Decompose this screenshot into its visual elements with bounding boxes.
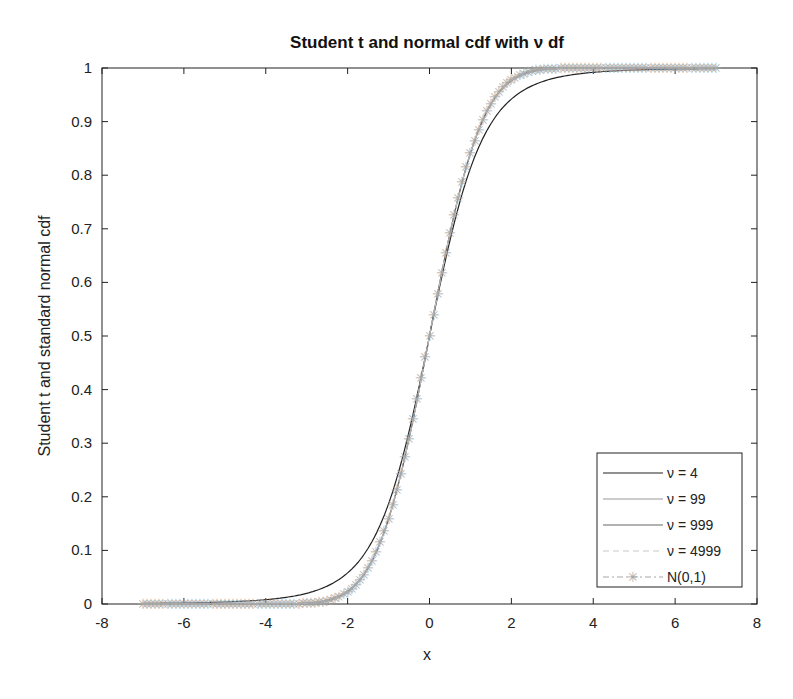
y-tick-label: 0.8 <box>71 166 92 183</box>
star-marker: ✳ <box>428 307 440 323</box>
star-marker: ✳ <box>432 286 444 302</box>
star-marker: ✳ <box>407 411 419 427</box>
y-tick-label: 0.3 <box>71 434 92 451</box>
legend-label: ν = 99 <box>667 491 706 507</box>
legend-label: ν = 4 <box>667 465 698 481</box>
star-marker: ✳ <box>448 207 460 223</box>
star-marker: ✳ <box>387 497 399 513</box>
star-marker: ✳ <box>419 349 431 365</box>
y-tick-label: 1 <box>84 59 92 76</box>
y-tick-label: 0.4 <box>71 381 92 398</box>
star-marker: ✳ <box>436 265 448 281</box>
star-marker: ✳ <box>710 60 722 76</box>
star-marker: ✳ <box>403 431 415 447</box>
star-marker: ✳ <box>424 328 436 344</box>
star-marker: ✳ <box>411 391 423 407</box>
y-tick-label: 0.2 <box>71 488 92 505</box>
legend-label: N(0,1) <box>667 569 706 585</box>
star-marker: ✳ <box>444 225 456 241</box>
cdf-chart: Student t and normal cdf with ν df -8-6-… <box>0 0 793 699</box>
star-marker: ✳ <box>415 370 427 386</box>
legend-label: ν = 999 <box>667 517 714 533</box>
x-axis-label: x <box>423 646 431 663</box>
y-axis-label: Student t and standard normal cdf <box>36 215 53 457</box>
legend-label: ν = 4999 <box>667 543 721 559</box>
star-marker: ✳ <box>391 482 403 498</box>
star-marker: ✳ <box>460 159 472 175</box>
y-tick-label: 0.7 <box>71 220 92 237</box>
star-marker: ✳ <box>456 174 468 190</box>
x-tick-label: 4 <box>589 614 597 631</box>
x-tick-label: 0 <box>425 614 433 631</box>
star-marker: ✳ <box>399 449 411 465</box>
star-marker: ✳ <box>440 245 452 261</box>
chart-title: Student t and normal cdf with ν df <box>290 33 564 52</box>
x-tick-label: -8 <box>95 614 108 631</box>
y-tick-label: 0.6 <box>71 273 92 290</box>
y-tick-label: 0.5 <box>71 327 92 344</box>
svg-text:✳: ✳ <box>627 569 639 585</box>
star-marker: ✳ <box>383 511 395 527</box>
x-tick-label: 6 <box>671 614 679 631</box>
x-tick-label: 8 <box>753 614 761 631</box>
legend: ν = 4ν = 99ν = 999ν = 4999✳N(0,1) <box>597 453 742 587</box>
star-marker: ✳ <box>452 190 464 206</box>
star-marker: ✳ <box>395 466 407 482</box>
x-tick-label: -2 <box>341 614 354 631</box>
y-tick-label: 0.9 <box>71 113 92 130</box>
x-tick-label: -4 <box>259 614 272 631</box>
y-tick-label: 0.1 <box>71 541 92 558</box>
x-tick-label: -6 <box>177 614 190 631</box>
x-tick-label: 2 <box>507 614 515 631</box>
y-tick-label: 0 <box>84 595 92 612</box>
